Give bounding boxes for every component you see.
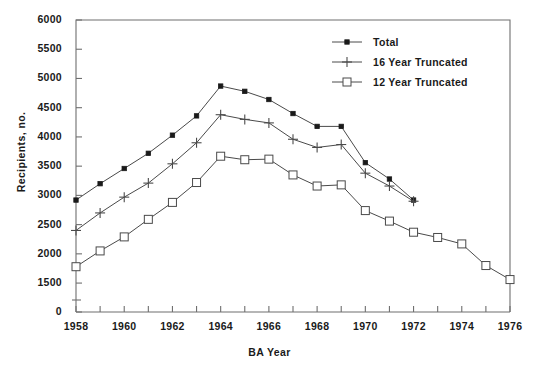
series-filled-square (74, 84, 416, 202)
series-plus (71, 110, 419, 236)
plot-area (0, 0, 539, 368)
series-open-square (72, 152, 514, 283)
chart-figure: Recipients, no. BA Year 6000550050004500… (0, 0, 539, 368)
